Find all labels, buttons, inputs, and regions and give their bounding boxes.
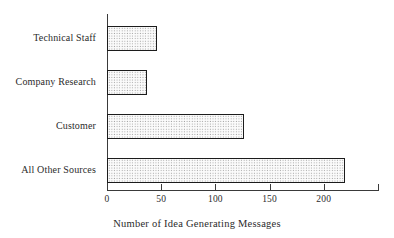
category-label: Customer: [56, 120, 96, 132]
x-axis-tick: [161, 184, 162, 191]
x-axis-tick: [324, 184, 325, 191]
x-axis-tick-label: 100: [208, 193, 223, 205]
x-axis-tick: [107, 184, 108, 191]
x-axis-line: [107, 190, 378, 191]
x-axis-tick-label: 0: [105, 193, 110, 205]
x-axis-tick-label: 150: [262, 193, 277, 205]
bar-chart: 050100150200 Technical StaffCompany Rese…: [0, 0, 394, 238]
x-axis-tick-label: 200: [316, 193, 331, 205]
bar: [107, 26, 157, 51]
x-axis-tick: [215, 184, 216, 191]
x-axis-tick: [270, 184, 271, 191]
bar: [107, 158, 345, 183]
bar: [107, 114, 244, 139]
x-axis-tick-label: 50: [156, 193, 166, 205]
category-label: All Other Sources: [21, 164, 96, 176]
bar: [107, 70, 147, 95]
x-axis-title: Number of Idea Generating Messages: [0, 218, 394, 229]
category-label: Company Research: [16, 76, 96, 88]
x-axis-tick: [378, 184, 379, 191]
category-label: Technical Staff: [33, 32, 96, 44]
